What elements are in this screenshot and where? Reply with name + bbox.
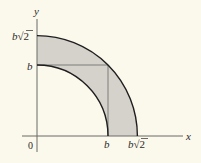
y-tick-label-b-sqrt2: b√2 xyxy=(12,30,29,42)
y-tick-label-b: b xyxy=(27,60,33,72)
x-tick-label-b: b xyxy=(104,138,110,150)
x-axis-label: x xyxy=(185,130,191,142)
origin-label: 0 xyxy=(28,140,33,151)
y-tick-sqrt2-part: √2 xyxy=(18,30,30,42)
quarter-annulus-diagram: y x 0 b b√2 b b√2 xyxy=(0,0,201,163)
x-tick-sqrt2-part: √2 xyxy=(134,138,146,150)
x-tick-label-b-sqrt2: b√2 xyxy=(128,138,145,150)
shaded-square-region xyxy=(37,65,108,136)
y-axis-label: y xyxy=(33,5,39,17)
